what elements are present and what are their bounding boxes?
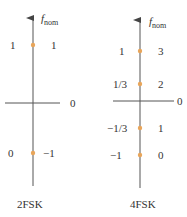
4fsk-level-right-0: 3 [158,45,164,57]
2fsk-caption: 2FSK [17,198,43,210]
2fsk-level-left-0: 1 [10,39,16,51]
4fsk-level-right-2: 1 [158,122,164,134]
2fsk-axis-label: fnom [41,12,58,27]
4fsk-level-left-2: −1/3 [107,122,127,134]
2fsk-level-right-1: −1 [43,147,55,159]
2fsk-level-left-1: 0 [8,147,14,159]
4fsk-dot-1 [138,126,142,130]
2fsk-level-right-0: 1 [51,39,57,51]
diagram-graphics [0,0,187,217]
4fsk-level-left-0: 1 [119,45,125,57]
4fsk-level-right-3: 0 [158,149,164,161]
4fsk-level-left-1: 1/3 [113,78,127,90]
4fsk-dot-3 [138,49,142,53]
4fsk-level-left-3: −1 [110,149,122,161]
axis-label-sub: nom [44,18,58,27]
4fsk-level-right-1: 2 [158,78,164,90]
4fsk-axis-label: fnom [149,15,166,30]
axis-label-sub: nom [152,21,166,30]
4fsk-dot-2 [138,82,142,86]
4fsk-dot-0 [138,153,142,157]
4fsk-caption: 4FSK [130,198,156,210]
2fsk-dot-0 [31,151,35,155]
2fsk-zero-label: 0 [70,97,76,109]
4fsk-zero-label: 0 [177,95,183,107]
2fsk-dot-1 [31,43,35,47]
